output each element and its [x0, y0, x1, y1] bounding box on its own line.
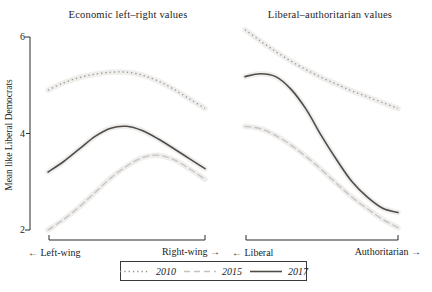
legend-dotted-line-icon [119, 269, 151, 274]
ytick-4: 4 [9, 127, 25, 140]
panel2-title: Liberal–authoritarian values [240, 9, 420, 20]
legend-label-2017: 2017 [288, 266, 308, 277]
legend-item-2010: 2010 [119, 266, 176, 277]
legend-item-2017: 2017 [249, 266, 308, 277]
panel1-title: Economic left–right values [40, 9, 216, 20]
xlabel-right-wing: Right-wing → [148, 246, 220, 258]
ytick-2: 2 [9, 223, 25, 236]
legend: 2010 2015 2017 [120, 261, 307, 281]
figure-two-panel-line-chart: Economic left–right values Liberal–autho… [0, 0, 432, 292]
ytick-6: 6 [9, 30, 25, 43]
legend-item-2015: 2015 [183, 266, 242, 277]
legend-solid-line-icon [249, 269, 283, 274]
xlabel-liberal: ← Liberal [232, 247, 273, 259]
xlabel-authoritarian: Authoritarian → [346, 246, 421, 258]
legend-dashed-line-icon [183, 269, 217, 274]
xlabel-left-wing: ← Left-wing [28, 247, 81, 259]
legend-label-2010: 2010 [156, 266, 176, 277]
legend-label-2015: 2015 [222, 266, 242, 277]
